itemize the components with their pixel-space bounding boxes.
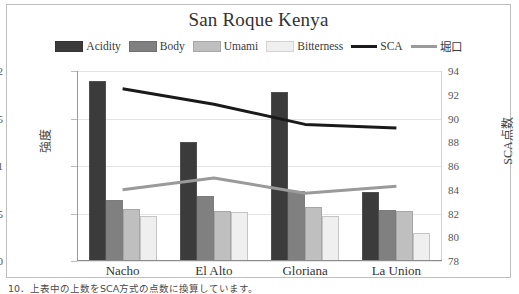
y-tick-right: 88 bbox=[448, 136, 488, 148]
plot-area: 00.511.52788082848688909294 bbox=[77, 71, 442, 261]
legend-line-sca bbox=[351, 45, 377, 48]
x-tick-label: La Union bbox=[351, 263, 442, 279]
x-axis-tick-labels: NachoEl AltoGlorianaLa Union bbox=[77, 263, 442, 279]
y-tick-right: 94 bbox=[448, 65, 488, 77]
y-tick-mark-left bbox=[71, 71, 77, 72]
y-tick-left: 1.5 bbox=[0, 113, 3, 125]
y-tick-left: 0.5 bbox=[0, 208, 3, 220]
y-tick-mark-left bbox=[71, 166, 77, 167]
x-tick-label: El Alto bbox=[168, 263, 259, 279]
legend-item-bitterness[interactable]: Bitterness bbox=[266, 40, 343, 52]
legend-swatch-acidity bbox=[55, 41, 83, 52]
y-tick-right: 78 bbox=[448, 255, 488, 267]
y-tick-right: 90 bbox=[448, 113, 488, 125]
legend-line-horiguchi bbox=[411, 45, 437, 48]
x-tick-label: Gloriana bbox=[260, 263, 351, 279]
legend-swatch-body bbox=[129, 41, 157, 52]
y-axis-left bbox=[77, 71, 78, 261]
legend-item-horiguchi[interactable]: 堀口 bbox=[411, 38, 462, 54]
legend-item-umami[interactable]: Umami bbox=[193, 40, 259, 52]
y-tick-right: 82 bbox=[448, 208, 488, 220]
legend-label-horiguchi: 堀口 bbox=[440, 38, 462, 54]
y-tick-right: 86 bbox=[448, 160, 488, 172]
x-axis bbox=[77, 260, 442, 261]
line-sca[interactable] bbox=[123, 89, 397, 128]
y-tick-right: 80 bbox=[448, 231, 488, 243]
y-tick-right: 84 bbox=[448, 184, 488, 196]
legend-label-umami: Umami bbox=[224, 40, 259, 52]
line-horiguchi[interactable] bbox=[123, 178, 397, 193]
y-tick-left: 0 bbox=[0, 255, 3, 267]
legend-item-acidity[interactable]: Acidity bbox=[55, 40, 121, 52]
y-tick-mark-left bbox=[71, 214, 77, 215]
y-tick-mark-left bbox=[71, 261, 77, 262]
y-axis-label-left: 強度 bbox=[36, 129, 54, 153]
chart-title: San Roque Kenya bbox=[7, 9, 510, 31]
chart-frame: San Roque Kenya Acidity Body Umami Bitte… bbox=[6, 4, 511, 278]
gridline bbox=[77, 261, 442, 262]
x-tick-label: Nacho bbox=[77, 263, 168, 279]
legend-label-bitterness: Bitterness bbox=[297, 40, 343, 52]
chart-caption: 10．上表中の上数をSCA方式の点数に換算しています。 bbox=[8, 281, 513, 294]
chart-legend: Acidity Body Umami Bitterness SCA 堀口 bbox=[7, 38, 510, 54]
legend-swatch-umami bbox=[193, 41, 221, 52]
y-tick-left: 2 bbox=[0, 65, 3, 77]
y-tick-left: 1 bbox=[0, 160, 3, 172]
line-series-overlay bbox=[77, 71, 442, 261]
y-tick-right: 92 bbox=[448, 89, 488, 101]
legend-label-sca: SCA bbox=[380, 40, 402, 52]
legend-item-sca[interactable]: SCA bbox=[351, 40, 402, 52]
legend-swatch-bitterness bbox=[266, 41, 294, 52]
y-tick-mark-left bbox=[71, 119, 77, 120]
legend-item-body[interactable]: Body bbox=[129, 40, 185, 52]
legend-label-body: Body bbox=[160, 40, 185, 52]
legend-label-acidity: Acidity bbox=[86, 40, 121, 52]
y-axis-label-right: SCA点数 bbox=[498, 117, 516, 164]
y-axis-right bbox=[441, 71, 442, 261]
